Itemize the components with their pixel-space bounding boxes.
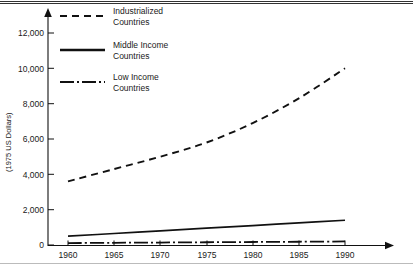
x-axis-arrowhead — [385, 242, 394, 250]
x-tick-label-1960: 1960 — [59, 250, 78, 260]
x-tick-label-1990: 1990 — [336, 250, 355, 260]
chart-figure: 12,000 10,000 8,000 6,000 4,000 2,000 0 … — [0, 0, 413, 264]
data-series-group — [68, 68, 345, 243]
y-tick-label-10000: 10,000 — [18, 64, 44, 74]
x-tick-label-1970: 1970 — [151, 250, 170, 260]
y-axis-tick-labels: 12,000 10,000 8,000 6,000 4,000 2,000 0 — [18, 28, 44, 250]
y-tick-label-6000: 6,000 — [23, 134, 45, 144]
y-axis-arrowhead — [44, 8, 52, 17]
x-tick-label-1975: 1975 — [198, 250, 217, 260]
legend-label-industrialized-line2: Countries — [113, 17, 149, 27]
y-tick-label-0: 0 — [39, 240, 44, 250]
legend-label-middle-income-line2: Countries — [113, 51, 149, 61]
x-tick-label-1965: 1965 — [105, 250, 124, 260]
legend-label-low-income-line2: Countries — [113, 83, 149, 93]
series-middle-income-countries — [68, 220, 345, 236]
legend-entry-low-income: Low Income Countries — [60, 72, 159, 93]
line-chart-canvas: 12,000 10,000 8,000 6,000 4,000 2,000 0 … — [0, 0, 413, 264]
y-axis — [44, 8, 52, 246]
legend-label-middle-income-line1: Middle Income — [113, 40, 169, 50]
legend-label-industrialized-line1: Industrialized — [113, 6, 163, 16]
y-tick-label-2000: 2,000 — [23, 205, 45, 215]
x-tick-label-1980: 1980 — [244, 250, 263, 260]
series-low-income-countries — [68, 241, 345, 243]
legend-entry-industrialized: Industrialized Countries — [60, 6, 163, 27]
y-tick-label-4000: 4,000 — [23, 170, 45, 180]
x-axis-tick-labels: 1960 1965 1970 1975 1980 1985 1990 — [59, 250, 355, 260]
y-axis-title: (1975 US Dollars) — [4, 112, 13, 172]
x-tick-label-1985: 1985 — [290, 250, 309, 260]
legend-entry-middle-income: Middle Income Countries — [60, 40, 169, 61]
chart-legend: Industrialized Countries Middle Income C… — [60, 6, 169, 93]
y-tick-label-8000: 8,000 — [23, 99, 45, 109]
series-industrialized-countries — [68, 68, 345, 181]
legend-label-low-income-line1: Low Income — [113, 72, 159, 82]
y-tick-label-12000: 12,000 — [18, 28, 44, 38]
y-axis-ticks — [48, 33, 54, 245]
